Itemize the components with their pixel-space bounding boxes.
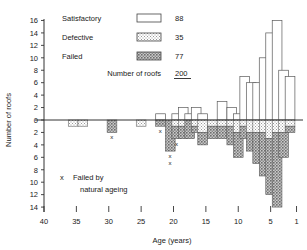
y-tick-label: 10	[30, 54, 38, 63]
bar-defective	[136, 120, 146, 126]
legend-label-defective: Defective	[62, 33, 93, 42]
annotation-line2: natural ageing	[80, 185, 128, 194]
legend-total-label: Number of roofs	[107, 69, 161, 78]
y-tick-label: 12	[30, 41, 38, 50]
natural-ageing-marker: x	[168, 160, 171, 166]
y-tick-label: 0	[34, 116, 38, 125]
x-tick-label: 1	[294, 217, 298, 226]
bar-failed	[107, 120, 117, 132]
bar-failed	[285, 126, 295, 132]
legend-swatch-satisfactory	[137, 14, 161, 22]
bar-defective	[217, 120, 227, 126]
annotation-marker: x	[60, 173, 64, 182]
bar-failed	[279, 132, 289, 157]
legend-total-value: 200	[175, 69, 188, 78]
x-tick-label: 35	[72, 217, 80, 226]
bar-defective	[207, 120, 217, 126]
bar-failed	[156, 120, 166, 126]
roof-age-histogram: 024681012141624681012144035302520151051 …	[0, 0, 307, 250]
legend: Satisfactory 88 Defective 35 Failed 77 N…	[62, 14, 191, 79]
natural-ageing-marker: x	[159, 128, 162, 134]
x-tick-label: 30	[105, 217, 113, 226]
natural-ageing-marker: x	[175, 141, 178, 147]
bar-defective	[198, 120, 208, 132]
legend-label-satisfactory: Satisfactory	[62, 14, 101, 23]
legend-value-satisfactory: 88	[175, 14, 183, 23]
y-tick-label: 6	[34, 78, 38, 87]
x-tick-label: 40	[40, 217, 48, 226]
x-tick-label: 15	[202, 217, 210, 226]
x-tick-label: 10	[234, 217, 242, 226]
y-tick-label: 14	[30, 203, 38, 212]
y-tick-label: 8	[34, 166, 38, 175]
legend-label-failed: Failed	[62, 52, 82, 61]
natural-ageing-marker: x	[110, 134, 113, 140]
y-tick-label: 2	[34, 128, 38, 137]
bar-failed	[198, 132, 208, 144]
natural-ageing-marker: x	[168, 153, 171, 159]
y-tick-label: 8	[34, 66, 38, 75]
legend-swatch-defective	[137, 33, 161, 41]
bar-failed	[207, 126, 217, 138]
annotation-natural-ageing: x Failed by natural ageing	[60, 173, 128, 194]
bar-satisfactory	[217, 101, 227, 120]
y-tick-label: 2	[34, 103, 38, 112]
bar-failed	[217, 126, 227, 138]
bar-satisfactory	[156, 114, 166, 120]
y-tick-label: 6	[34, 153, 38, 162]
chart-figure: 024681012141624681012144035302520151051 …	[0, 0, 307, 250]
x-tick-label: 20	[169, 217, 177, 226]
x-tick-label: 5	[269, 217, 273, 226]
x-axis-title: Age (years)	[153, 236, 192, 245]
legend-value-failed: 77	[175, 52, 183, 61]
y-tick-label: 4	[34, 141, 38, 150]
y-axis-title: Number of roofs	[4, 93, 13, 147]
y-tick-label: 14	[30, 29, 38, 38]
bar-defective	[285, 120, 295, 126]
legend-swatch-failed	[137, 52, 161, 60]
y-tick-label: 12	[30, 190, 38, 199]
bar-defective	[68, 120, 78, 126]
y-tick-label: 10	[30, 178, 38, 187]
bar-satisfactory	[198, 114, 208, 120]
y-tick-label: 16	[30, 16, 38, 25]
bar-satisfactory	[285, 76, 295, 120]
y-tick-label: 4	[34, 91, 38, 100]
annotation-line1: Failed by	[73, 173, 104, 182]
x-tick-label: 25	[137, 217, 145, 226]
legend-value-defective: 35	[175, 33, 183, 42]
bar-defective	[78, 120, 88, 126]
